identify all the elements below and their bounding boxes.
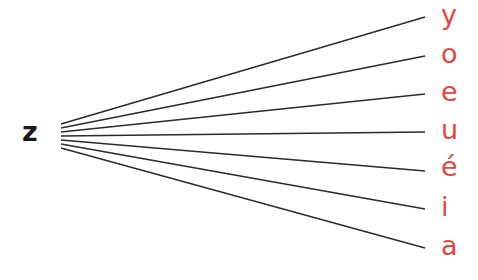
target-node-u: u: [441, 115, 458, 145]
connector-line-y: [61, 17, 425, 124]
target-node-a: a: [441, 231, 458, 261]
connector-line-i: [61, 144, 425, 209]
target-node-i: i: [441, 192, 449, 222]
target-node-e: e: [441, 77, 458, 107]
connector-line-e: [61, 94, 425, 132]
target-node-o: o: [441, 39, 458, 69]
target-node-e-acute: é: [441, 152, 458, 182]
connector-lines: [0, 0, 478, 280]
connector-line-u: [61, 132, 425, 136]
target-node-y: y: [441, 0, 457, 30]
connector-line-a: [61, 148, 425, 248]
connector-line-e-acute: [61, 140, 425, 171]
connector-line-o: [61, 56, 425, 128]
